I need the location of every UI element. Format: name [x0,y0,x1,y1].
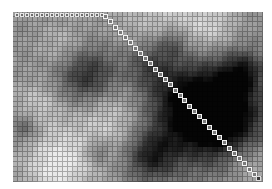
path-marker [75,13,79,17]
path-marker [15,13,19,17]
path-marker [90,13,94,17]
path-marker [95,13,99,17]
path-marker [30,13,34,17]
path-marker [202,119,207,124]
path-marker [222,140,227,145]
path-marker [45,13,49,17]
path-marker [85,13,89,17]
path-marker [70,13,74,17]
path-marker [60,13,64,17]
path-marker [20,13,24,17]
heatmap-grid [13,12,263,182]
path-marker [168,82,173,87]
path-marker [65,13,69,17]
path-marker [35,13,39,17]
path-marker [40,13,44,17]
path-marker [182,98,187,103]
path-marker [128,40,133,45]
path-marker [50,13,54,17]
path-marker [242,161,247,166]
path-marker [256,176,261,181]
path-marker [55,13,59,17]
path-marker [80,13,84,17]
path-marker [148,61,153,66]
path-marker [108,19,113,24]
path-marker [25,13,29,17]
